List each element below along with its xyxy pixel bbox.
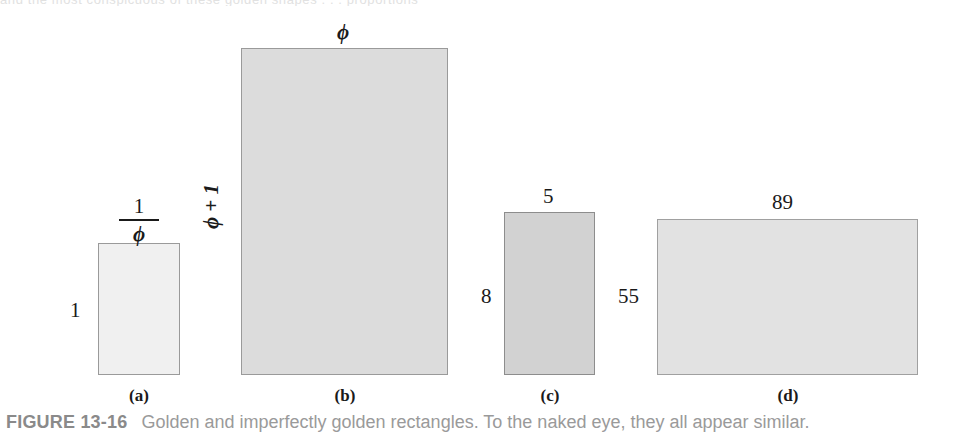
rectangle-a — [98, 243, 180, 375]
panel-tag-d: (d) — [748, 386, 828, 406]
figure-graphic: 1 ϕ 1 (a) ϕ ϕ + 1 (b) 5 8 (c) 89 55 (d) — [0, 0, 972, 410]
rectangle-b-width-label: ϕ — [337, 22, 349, 43]
rectangle-d — [657, 219, 918, 375]
rectangle-c-height-label: 8 — [481, 286, 492, 307]
rectangle-d-height-label: 55 — [618, 286, 639, 307]
rectangle-b — [241, 48, 448, 375]
rectangle-d-width-label: 89 — [772, 192, 793, 213]
rectangle-b-height-label: ϕ + 1 — [201, 184, 222, 229]
figure-number: FIGURE 13-16 — [6, 412, 127, 433]
rectangle-a-width-label: 1 ϕ — [119, 196, 159, 245]
figure-page: and the most conspicuous of these golden… — [0, 0, 972, 442]
rectangle-a-height-label: 1 — [70, 300, 81, 321]
fraction-bar — [119, 219, 159, 221]
figure-caption: FIGURE 13-16 Golden and imperfectly gold… — [6, 412, 966, 438]
rectangle-a-width-denominator: ϕ — [119, 223, 159, 245]
panel-tag-c: (c) — [510, 386, 590, 406]
rectangle-a-width-numerator: 1 — [119, 196, 159, 218]
rectangle-c — [504, 212, 595, 375]
figure-caption-text: Golden and imperfectly golden rectangles… — [141, 412, 809, 433]
rectangle-c-width-label: 5 — [543, 186, 554, 207]
panel-tag-a: (a) — [99, 386, 179, 406]
panel-tag-b: (b) — [305, 386, 385, 406]
